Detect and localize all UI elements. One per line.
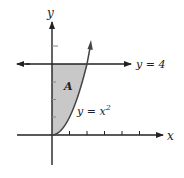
y-axis-label: y [46, 6, 54, 20]
x-axis-label: x [167, 129, 174, 143]
region-label: A [63, 80, 73, 93]
curve-arrow-icon [88, 40, 93, 50]
area-diagram: y x y = 4 A y = x2 [0, 0, 184, 178]
shaded-region-a [52, 64, 87, 135]
curve-label: y = x2 [76, 103, 111, 118]
line-label: y = 4 [135, 58, 165, 71]
